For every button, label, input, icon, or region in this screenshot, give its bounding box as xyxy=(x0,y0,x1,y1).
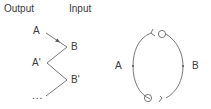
zigzag-path xyxy=(46,33,67,96)
right-side-dot xyxy=(182,65,184,67)
diagram-graphics xyxy=(0,0,211,109)
top-node-circle xyxy=(158,30,165,37)
ellipse-left-arc xyxy=(133,33,151,99)
top-arrow-icon xyxy=(151,29,155,36)
bottom-arrow-icon xyxy=(159,96,162,102)
left-side-dot xyxy=(132,65,134,67)
ellipse-right-arc xyxy=(166,34,183,98)
